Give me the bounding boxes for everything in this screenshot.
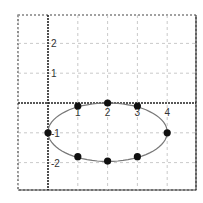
ellipse-chart: 1234 21-1-2: [0, 0, 203, 203]
y-tick-label: 2: [51, 38, 57, 49]
x-tick-labels: 1234: [75, 107, 170, 118]
y-tick-label: 1: [51, 68, 57, 79]
y-tick-label: -1: [51, 128, 60, 139]
data-point: [104, 99, 111, 106]
y-tick-label: -2: [51, 158, 60, 169]
data-point: [134, 102, 141, 109]
data-point: [104, 158, 111, 165]
x-tick-label: 2: [105, 107, 111, 118]
data-point: [164, 129, 171, 136]
data-point: [44, 129, 51, 136]
x-tick-label: 4: [164, 107, 170, 118]
data-point: [74, 153, 81, 160]
data-point: [134, 153, 141, 160]
data-point: [74, 102, 81, 109]
